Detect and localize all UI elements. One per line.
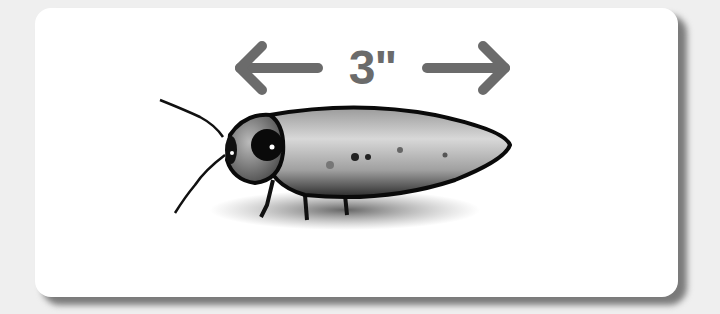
cockroach-illustration	[155, 95, 525, 235]
size-indicator: 3"	[230, 38, 515, 98]
right-arrow-icon	[420, 38, 515, 98]
left-arrow-icon	[230, 38, 325, 98]
measurement-label: 3"	[340, 40, 405, 95]
